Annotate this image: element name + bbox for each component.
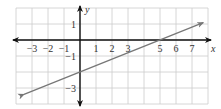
grid: [16, 8, 208, 104]
x-tick-label: 3: [126, 43, 131, 54]
y-tick-label: −1: [65, 51, 76, 62]
x-tick-label: 5: [158, 43, 163, 54]
x-tick-labels: −3−2−1123567: [27, 43, 195, 54]
x-tick-label: 6: [174, 43, 179, 54]
x-tick-label: −3: [27, 43, 38, 54]
coordinate-plane: −3−2−1123567 1−1−3 x y: [0, 0, 221, 109]
y-tick-label: −3: [65, 83, 76, 94]
x-tick-label: 1: [94, 43, 99, 54]
x-tick-label: 7: [190, 43, 195, 54]
y-tick-labels: 1−1−3: [65, 19, 76, 94]
x-axis-label: x: [210, 43, 216, 54]
y-axis-label: y: [84, 4, 90, 15]
x-tick-label: −2: [43, 43, 54, 54]
y-tick-label: 1: [71, 19, 76, 30]
x-tick-label: 2: [110, 43, 115, 54]
